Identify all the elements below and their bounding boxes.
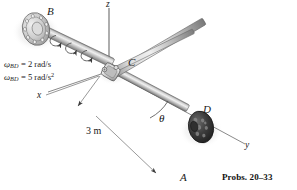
omega-value: = 2 rad/s (21, 59, 51, 69)
kinematics-annotations: ωBD = 2 rad/s ˙ωBD = 5 rad/s2 (4, 58, 54, 84)
label-angle-theta: θ (159, 112, 164, 124)
angular-velocity-line: ωBD = 2 rad/s (4, 58, 54, 71)
mechanics-figure (0, 0, 297, 190)
label-axis-y: y (245, 141, 249, 151)
angular-acceleration-line: ˙ωBD = 5 rad/s2 (4, 71, 54, 84)
overdot-accent: ˙ (6, 67, 9, 75)
label-point-c: C (128, 57, 135, 68)
label-axis-z: z (106, 0, 110, 10)
label-point-d: D (203, 104, 211, 115)
label-axis-x: x (37, 91, 41, 101)
label-point-a: A (180, 172, 187, 183)
label-point-b: B (47, 6, 54, 17)
alpha-value-exponent: 2 (51, 71, 54, 78)
omega-dot-symbol: ˙ω (4, 71, 10, 83)
figure-caption: Probs. 20–33 (222, 172, 273, 182)
omega-subscript: BD (10, 62, 19, 69)
alpha-subscript: BD (10, 75, 19, 82)
alpha-value: = 5 rad/s (21, 72, 51, 82)
rod-ca-secondary (106, 29, 194, 76)
label-dimension-3m: 3 m (86, 125, 101, 136)
